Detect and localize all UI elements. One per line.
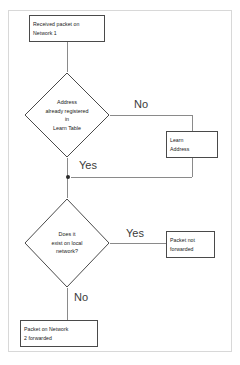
forwarded-line-2: 2 forwarded bbox=[24, 334, 94, 343]
edge-label-no-learn: No bbox=[134, 99, 148, 110]
address-registered-decision: Address already registered in Learn Tabl… bbox=[24, 72, 110, 158]
edge-label-yes-learn: Yes bbox=[79, 160, 97, 171]
decision1-line-3: in bbox=[65, 115, 69, 124]
decision2-line-1: Does it bbox=[59, 230, 76, 239]
edge-label-no-local: No bbox=[74, 292, 88, 303]
received-packet-line-1: Received packet on bbox=[33, 20, 101, 29]
diagram-frame bbox=[8, 10, 232, 352]
learn-address-box: Learn Address bbox=[166, 131, 218, 158]
address-registered-decision-text: Address already registered in Learn Tabl… bbox=[24, 72, 110, 158]
local-network-decision: Does it exist on local network? bbox=[24, 198, 110, 288]
edge-label-yes-local: Yes bbox=[126, 228, 144, 239]
learn-address-line-1: Learn bbox=[170, 136, 214, 145]
decision2-line-3: network? bbox=[56, 247, 78, 256]
decision1-line-1: Address bbox=[57, 98, 77, 107]
not-forwarded-line-1: Packet not bbox=[170, 236, 211, 245]
decision1-line-4: Learn Table bbox=[53, 124, 81, 133]
not-forwarded-line-2: forwarded bbox=[170, 245, 211, 254]
packet-forwarded-box: Packet on Network 2 forwarded bbox=[20, 320, 98, 347]
learn-address-line-2: Address bbox=[170, 145, 214, 154]
received-packet-line-2: Network 1 bbox=[33, 29, 101, 38]
decision1-line-2: already registered bbox=[45, 107, 88, 116]
local-network-decision-text: Does it exist on local network? bbox=[24, 198, 110, 288]
received-packet-box: Received packet on Network 1 bbox=[29, 15, 105, 42]
decision2-line-2: exist on local bbox=[51, 239, 82, 248]
packet-not-forwarded-box: Packet not forwarded bbox=[166, 231, 215, 258]
forwarded-line-1: Packet on Network bbox=[24, 325, 94, 334]
flowchart-canvas: Received packet on Network 1 Address alr… bbox=[0, 0, 240, 365]
